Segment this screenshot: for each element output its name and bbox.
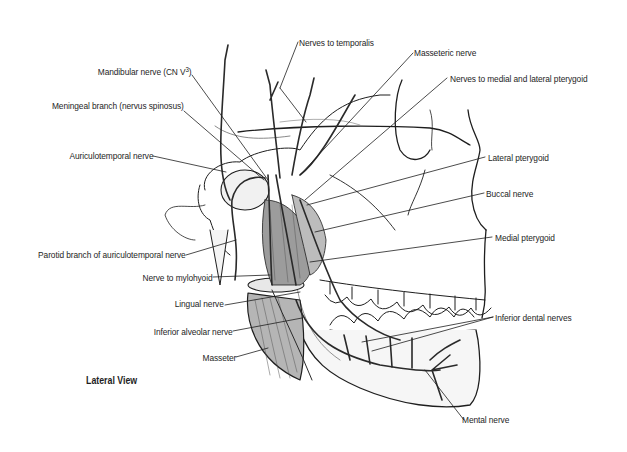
label-auriculotemporal-nerve: Auriculotemporal nerve — [69, 150, 153, 161]
anatomy-figure: Mandibular nerve (CN V3) Meningeal branc… — [0, 0, 627, 452]
label-nerves-to-temporalis: Nerves to temporalis — [299, 37, 374, 48]
figure-caption: Lateral View — [86, 375, 137, 386]
label-mental-nerve: Mental nerve — [462, 414, 509, 425]
label-lingual-nerve: Lingual nerve — [175, 298, 224, 309]
label-masseteric-nerve: Masseteric nerve — [414, 47, 476, 58]
skull-outline — [165, 80, 486, 318]
masseter-muscle — [248, 278, 304, 380]
label-nerves-to-pterygoid: Nerves to medial and lateral pterygoid — [450, 73, 587, 84]
label-lateral-pterygoid: Lateral pterygoid — [488, 152, 549, 163]
label-inferior-dental-nerves: Inferior dental nerves — [495, 312, 572, 323]
label-medial-pterygoid: Medial pterygoid — [495, 232, 555, 243]
label-masseter: Masseter — [202, 352, 236, 363]
label-buccal-nerve: Buccal nerve — [486, 188, 533, 199]
label-inferior-alveolar-nerve: Inferior alveolar nerve — [154, 326, 233, 337]
label-meningeal-branch: Meningeal branch (nervus spinosus) — [52, 100, 184, 111]
label-mandibular-nerve: Mandibular nerve (CN V3) — [98, 64, 192, 77]
upper-teeth — [320, 280, 491, 315]
label-parotid-branch: Parotid branch of auriculotemporal nerve — [38, 249, 186, 260]
label-nerve-to-mylohyoid: Nerve to mylohyoid — [143, 272, 213, 283]
